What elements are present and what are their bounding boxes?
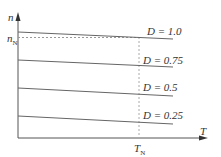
x-axis-label: T xyxy=(200,126,206,137)
diagram: n nN D = 1.0 D = 0.75 D = 0.5 D = 0.25 T… xyxy=(0,0,221,157)
y-axis-arrow-icon xyxy=(16,12,21,21)
label-d-0.5: D = 0.5 xyxy=(143,82,178,93)
x-marker-sub: N xyxy=(140,149,145,157)
label-d-0.25: D = 0.25 xyxy=(143,110,183,121)
diagram-graphics xyxy=(0,0,221,157)
y-marker-label: nN xyxy=(7,33,18,47)
y-axis-label: n xyxy=(8,12,14,23)
x-marker-label: TN xyxy=(134,143,145,157)
label-d-0.75: D = 0.75 xyxy=(143,55,183,66)
y-marker-sub: N xyxy=(13,39,18,47)
label-d-1.0: D = 1.0 xyxy=(147,26,182,37)
